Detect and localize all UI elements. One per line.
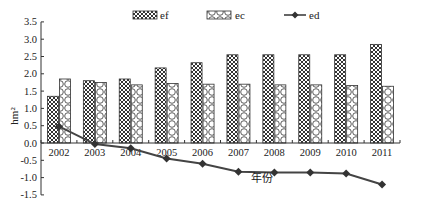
x-tick-label: 2007 xyxy=(228,147,249,158)
ed-point-diamond-icon xyxy=(234,168,242,176)
bar-ef xyxy=(47,96,58,143)
bar-ef xyxy=(299,55,310,143)
bar-ec xyxy=(95,82,106,143)
ed-point-diamond-icon xyxy=(378,181,386,189)
legend-item-ec: ec xyxy=(207,9,245,21)
bar-ef xyxy=(263,55,274,143)
ef-swatch-icon xyxy=(133,11,157,19)
y-tick-label: 1.0 xyxy=(24,103,37,114)
y-tick-label: 0.0 xyxy=(24,138,37,149)
x-tick-label: 2006 xyxy=(192,147,213,158)
chart: ef ec ed hm² 3.53.02.52.01.51.00.50.0-0.… xyxy=(0,0,429,212)
y-tick-label: 3.0 xyxy=(24,34,37,45)
bar-ec xyxy=(239,84,250,143)
x-tick-label: 2003 xyxy=(84,147,105,158)
bar-group-2004 xyxy=(119,79,142,143)
y-tick-label: 2.0 xyxy=(24,68,37,79)
bar-group-2009 xyxy=(299,55,322,143)
x-tick-label: 2008 xyxy=(264,147,285,158)
bar-ef xyxy=(191,63,202,143)
y-tick-label: -0.5 xyxy=(20,155,37,166)
bar-ef xyxy=(371,44,382,143)
bar-ec xyxy=(311,85,322,143)
bars xyxy=(47,44,393,143)
legend-item-ed: ed xyxy=(284,9,320,21)
bar-ec xyxy=(203,84,214,143)
ed-point-diamond-icon xyxy=(342,169,350,177)
legend-item-ef: ef xyxy=(133,9,169,21)
y-tick-label: 3.5 xyxy=(24,16,37,27)
bar-group-2008 xyxy=(263,55,286,143)
y-tick-label: -1.0 xyxy=(20,172,37,183)
legend: ef ec ed xyxy=(133,9,320,21)
bar-ec xyxy=(59,79,70,143)
bar-ec xyxy=(275,85,286,143)
bar-group-2006 xyxy=(191,63,214,143)
bar-ef xyxy=(83,81,94,143)
y-tick-label: 0.5 xyxy=(24,120,37,131)
x-tick-label: 2002 xyxy=(48,147,69,158)
bar-group-2002 xyxy=(47,79,70,143)
x-tick-label: 2010 xyxy=(336,147,357,158)
y-axis: 3.53.02.52.01.51.00.50.0-0.5-1.0-1.5 xyxy=(20,16,44,200)
bar-group-2010 xyxy=(335,55,358,143)
bar-group-2003 xyxy=(83,81,106,143)
y-axis-title: hm² xyxy=(8,107,20,125)
bar-group-2007 xyxy=(227,55,250,143)
ec-swatch-icon xyxy=(207,11,231,19)
bar-ef xyxy=(227,55,238,143)
y-tick-label: -1.5 xyxy=(20,189,37,200)
bar-group-2005 xyxy=(155,68,178,143)
bar-ef xyxy=(155,68,166,143)
bar-ec xyxy=(167,83,178,143)
y-tick-label: 2.5 xyxy=(24,51,37,62)
bar-ef xyxy=(335,55,346,143)
x-tick-label: 2011 xyxy=(372,147,393,158)
legend-label-ec: ec xyxy=(235,9,245,21)
ed-diamond-icon xyxy=(292,12,299,19)
ed-point-diamond-icon xyxy=(306,168,314,176)
bar-group-2011 xyxy=(371,44,394,143)
bar-ec xyxy=(383,86,394,143)
bar-ec xyxy=(347,86,358,143)
x-axis-title: 年份 xyxy=(251,171,273,184)
bar-ef xyxy=(119,79,130,143)
y-tick-label: 1.5 xyxy=(24,86,37,97)
bar-ec xyxy=(131,85,142,143)
legend-label-ef: ef xyxy=(160,9,169,21)
legend-label-ed: ed xyxy=(309,9,320,21)
x-tick-label: 2009 xyxy=(300,147,321,158)
ed-point-diamond-icon xyxy=(199,160,207,168)
